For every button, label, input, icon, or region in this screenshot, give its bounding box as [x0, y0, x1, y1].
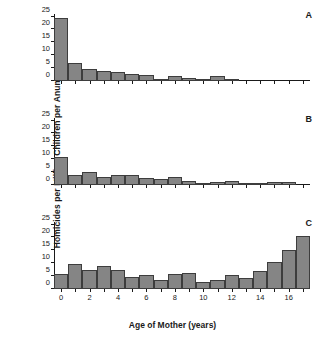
bar: [68, 63, 82, 81]
bar: [82, 172, 96, 185]
y-tick-label-a-10: 10: [42, 44, 50, 52]
bar: [154, 179, 168, 185]
y-tick-label-b-10: 10: [42, 148, 50, 156]
y-tick-label-b-25: 25: [42, 110, 50, 118]
x-axis-title: Age of Mother (years): [103, 320, 216, 330]
x-tick-b-12: [232, 185, 233, 188]
figure-container: Homicides per Million Children per Anum …: [0, 0, 319, 338]
bar: [196, 183, 210, 185]
plot-area-b: 0510152025: [54, 118, 310, 185]
x-tick-b-6: [146, 185, 147, 188]
bar: [196, 282, 210, 289]
bar: [111, 72, 125, 81]
y-tick-label-a-25: 25: [42, 6, 50, 14]
x-tick-b-4: [118, 185, 119, 188]
bar: [168, 76, 182, 81]
x-tick-b-5: [132, 185, 133, 188]
x-tick-c-1: [75, 289, 76, 292]
bar: [182, 181, 196, 185]
x-tick-b-14: [260, 185, 261, 188]
bar: [154, 79, 168, 81]
bar: [239, 183, 253, 185]
bar: [267, 262, 281, 289]
bar: [253, 271, 267, 289]
plot-area-a: 0510152025: [54, 14, 310, 81]
x-tick-c-6: [146, 289, 147, 292]
y-tick-label-b-20: 20: [42, 122, 50, 130]
x-tick-c-13: [246, 289, 247, 292]
x-tick-a-4: [118, 81, 119, 84]
x-tick-b-1: [75, 185, 76, 188]
x-tick-label-8: 8: [173, 294, 177, 302]
bar: [154, 280, 168, 289]
bar: [111, 270, 125, 289]
x-tick-a-8: [175, 81, 176, 84]
x-tick-b-13: [246, 185, 247, 188]
x-tick-c-5: [132, 289, 133, 292]
x-tick-c-16: [289, 289, 290, 292]
y-tick-label-c-0: 0: [46, 278, 50, 286]
panel-a: A 0510152025: [28, 8, 316, 103]
x-tick-a-13: [246, 81, 247, 84]
x-tick-label-4: 4: [116, 294, 120, 302]
bar: [267, 182, 281, 185]
x-tick-a-0: [61, 81, 62, 84]
x-tick-c-0: [61, 289, 62, 292]
bar: [125, 74, 139, 81]
x-tick-b-11: [218, 185, 219, 188]
x-tick-c-12: [232, 289, 233, 292]
y-tick-label-a-20: 20: [42, 18, 50, 26]
x-tick-c-17: [303, 289, 304, 292]
x-tick-a-11: [218, 81, 219, 84]
x-tick-c-7: [161, 289, 162, 292]
bar: [139, 275, 153, 289]
bar: [239, 278, 253, 289]
x-tick-label-12: 12: [228, 294, 236, 302]
x-tick-label-16: 16: [284, 294, 292, 302]
x-tick-c-9: [189, 289, 190, 292]
bar: [111, 175, 125, 185]
y-tick-label-a-5: 5: [46, 57, 50, 65]
y-tick-label-b-5: 5: [46, 161, 50, 169]
bar: [282, 182, 296, 185]
bars-b: [54, 118, 310, 185]
y-tick-label-c-20: 20: [42, 226, 50, 234]
bar: [182, 78, 196, 81]
bar: [182, 273, 196, 289]
x-tick-label-10: 10: [199, 294, 207, 302]
bar: [68, 175, 82, 185]
x-tick-a-5: [132, 81, 133, 84]
y-tick-label-c-5: 5: [46, 265, 50, 273]
x-tick-c-3: [104, 289, 105, 292]
y-tick-label-c-15: 15: [42, 239, 50, 247]
x-tick-b-15: [274, 185, 275, 188]
x-tick-c-11: [218, 289, 219, 292]
x-tick-b-2: [90, 185, 91, 188]
x-tick-c-8: [175, 289, 176, 292]
y-tick-label-a-0: 0: [46, 70, 50, 78]
bar: [54, 157, 68, 185]
bar: [225, 79, 239, 81]
bar: [282, 250, 296, 289]
x-axis-title-wrap: Age of Mother (years): [0, 320, 319, 330]
bar: [97, 266, 111, 289]
bar: [168, 177, 182, 185]
x-tick-c-14: [260, 289, 261, 292]
bar: [225, 275, 239, 289]
bar: [210, 76, 224, 81]
x-tick-c-15: [274, 289, 275, 292]
bar: [225, 181, 239, 185]
x-tick-b-17: [303, 185, 304, 188]
x-tick-b-7: [161, 185, 162, 188]
bars-a: [54, 14, 310, 81]
x-tick-c-10: [203, 289, 204, 292]
bar: [125, 277, 139, 289]
bar: [54, 274, 68, 289]
x-tick-c-2: [90, 289, 91, 292]
x-tick-b-0: [61, 185, 62, 188]
x-tick-a-15: [274, 81, 275, 84]
bar: [139, 178, 153, 185]
bar: [54, 18, 68, 81]
x-tick-a-7: [161, 81, 162, 84]
y-tick-label-a-15: 15: [42, 31, 50, 39]
